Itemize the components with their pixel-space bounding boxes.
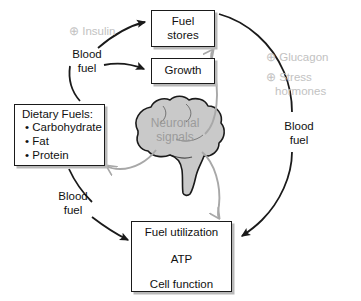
node-dietary-fuels[interactable]: Dietary Fuels: • Carbohydrate • Fat • Pr… bbox=[14, 104, 105, 166]
blood-fuel-left-line-2: fuel bbox=[64, 204, 83, 216]
dietary-fuels-heading: Dietary Fuels: bbox=[22, 108, 93, 122]
blood-fuel-right-line-2: fuel bbox=[290, 134, 309, 146]
fuel-stores-line-2: stores bbox=[167, 29, 198, 43]
label-blood-fuel-right: Blood fuel bbox=[272, 120, 326, 147]
label-insulin: ⊕ Insulin bbox=[69, 24, 115, 38]
brain-icon bbox=[136, 96, 224, 195]
dietary-fuels-item-carbohydrate: • Carbohydrate bbox=[22, 121, 102, 135]
label-neuronal-signals: Neuronal signals bbox=[133, 116, 217, 145]
fuel-stores-line-1: Fuel bbox=[172, 15, 194, 29]
neuronal-signals-line-2: signals bbox=[156, 130, 193, 144]
connector-blood-fuel-left-to-fuel-utilization bbox=[92, 217, 128, 240]
neuronal-signals-line-1: Neuronal bbox=[151, 116, 200, 130]
label-blood-fuel-left: Blood fuel bbox=[46, 190, 100, 217]
fuel-utilization-label: Fuel utilization bbox=[145, 226, 219, 240]
node-fuel-stores[interactable]: Fuel stores bbox=[151, 10, 215, 47]
stress-hormones-line-2: hormones bbox=[266, 84, 326, 98]
dietary-fuels-item-fat: • Fat bbox=[22, 135, 49, 149]
node-fuel-utilization[interactable]: Fuel utilization ATP Cell function bbox=[131, 221, 232, 292]
connector-right-loop-to-fuel-utilization bbox=[242, 152, 292, 236]
label-stress-hormones: ⊕ Stress hormones bbox=[266, 70, 326, 99]
label-glucagon: ⊕ Glucagon bbox=[266, 50, 328, 64]
growth-label: Growth bbox=[164, 64, 201, 78]
dietary-fuels-item-protein: • Protein bbox=[22, 149, 69, 163]
stress-hormones-line-1: ⊕ Stress bbox=[266, 71, 312, 83]
blood-fuel-top-line-1: Blood bbox=[72, 48, 101, 60]
node-growth[interactable]: Growth bbox=[151, 58, 215, 84]
label-blood-fuel-top: Blood fuel bbox=[60, 48, 114, 75]
blood-fuel-left-line-1: Blood bbox=[58, 190, 87, 202]
atp-label: ATP bbox=[171, 253, 193, 267]
connector-brain-to-fuel-utilization bbox=[202, 152, 219, 218]
metabolism-diagram: Fuel stores Growth Dietary Fuels: • Carb… bbox=[0, 0, 361, 301]
cell-function-label: Cell function bbox=[150, 278, 213, 292]
blood-fuel-top-line-2: fuel bbox=[78, 62, 97, 74]
blood-fuel-right-line-1: Blood bbox=[284, 120, 313, 132]
